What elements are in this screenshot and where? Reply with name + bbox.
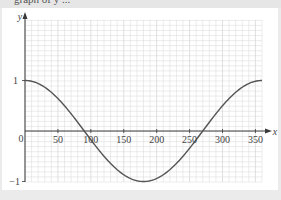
x-tick-label-250: 250 bbox=[182, 134, 197, 145]
x-axis-label: x bbox=[272, 126, 278, 137]
y-tick-label-1: 1 bbox=[13, 75, 18, 86]
x-tick-label-100: 100 bbox=[83, 134, 98, 145]
y-axis-label: y bbox=[17, 11, 23, 22]
x-tick-label-350: 350 bbox=[248, 134, 263, 145]
x-tick-label-50: 50 bbox=[53, 134, 63, 145]
origin-label: 0 bbox=[19, 133, 24, 144]
x-tick-label-150: 150 bbox=[116, 134, 131, 145]
x-tick-label-300: 300 bbox=[215, 134, 230, 145]
y-tick-label-neg1: −1 bbox=[9, 176, 20, 187]
cosine-chart: 5010015020025030035001−1xy bbox=[0, 0, 281, 200]
x-tick-label-200: 200 bbox=[149, 134, 164, 145]
